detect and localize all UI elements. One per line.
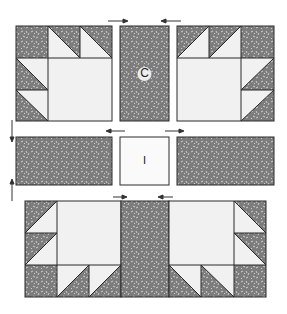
arrow-right-icon xyxy=(165,129,184,133)
arrow-left-icon xyxy=(106,129,125,133)
bottom-right-bear-paw-block xyxy=(169,201,266,297)
arrow-down-icon xyxy=(10,120,14,142)
bottom-sashing-strip xyxy=(121,201,169,297)
middle-left-sashing-strip xyxy=(16,137,112,185)
arrow-right-icon xyxy=(108,19,128,23)
arrow-left-icon xyxy=(158,195,173,199)
arrow-right-icon xyxy=(113,195,127,199)
top-left-bear-paw-block xyxy=(16,26,112,121)
strip-label-c: C xyxy=(138,68,151,79)
square-label-i: I xyxy=(138,155,151,166)
bottom-left-bear-paw-block xyxy=(25,201,121,297)
middle-right-sashing-strip xyxy=(177,137,274,185)
top-right-bear-paw-block xyxy=(177,26,274,121)
arrow-left-icon xyxy=(161,19,181,23)
arrow-up-icon xyxy=(10,179,14,201)
